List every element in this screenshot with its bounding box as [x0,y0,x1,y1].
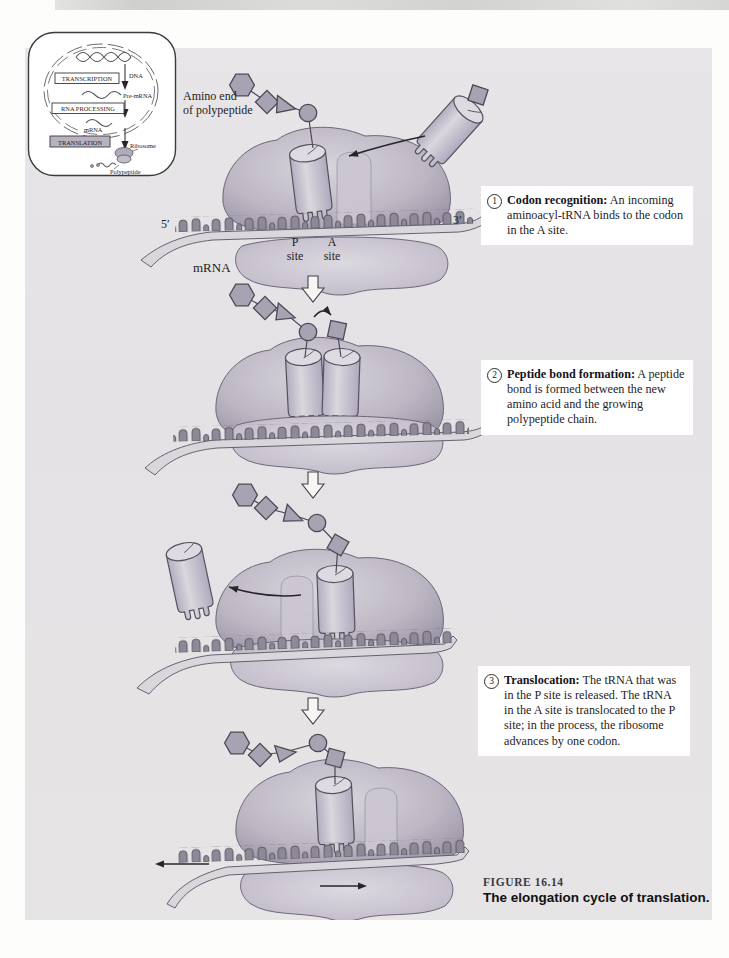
textbook-figure-page: DNA TRANSCRIPTION Pre-mRNA RNA PROCESSIN… [0,0,729,958]
amino-acid-circle [299,323,316,340]
svg-text:P: P [292,235,299,249]
step-4-ribosome-advanced [155,732,469,920]
five-prime-label: 5′ [161,217,170,231]
peptide-bond-arrow [314,306,334,317]
step-down-arrow-2 [302,472,324,498]
ribosome-small-subunit [236,237,448,295]
callout-3-text: Translocation: The tRNA that was in the … [504,673,682,749]
amino-acid-diamond [254,496,277,519]
callout-1-title: Codon recognition: [507,193,607,207]
amino-acid-circle [308,514,325,531]
amino-acid-triangle [275,742,298,762]
amino-acid-circle [309,734,326,751]
released-trna [165,540,216,623]
trna-in-p-site [285,348,325,427]
trna-in-a-site [322,348,361,426]
amino-acid-circle [299,104,316,121]
callout-1-text: Codon recognition: An incoming aminoacyl… [507,193,685,238]
amino-acid-triangle [281,504,306,527]
page-scan-edge [55,0,729,10]
callout-2-number-badge: 2 [487,368,502,383]
figure-number-label: FIGURE 16.14 [483,876,713,888]
callout-translocation: 3 Translocation: The tRNA that was in th… [478,666,690,756]
three-prime-label: 3′ [453,213,462,227]
mrna-label: mRNA [193,260,231,275]
amino-acid-triangle [275,96,298,116]
svg-text:site: site [324,249,341,263]
callout-2-title: Peptide bond formation: [507,367,635,381]
amino-acid-hexagon [230,284,255,306]
step-down-arrow-3 [302,698,324,724]
amino-end-label-line2: of polypeptide [183,103,253,117]
figure-title: The elongation cycle of translation. [483,890,713,905]
step-1-codon-recognition: Amino end of polypeptide 5′ 3′ mRNA P si… [141,74,494,295]
amino-acid-diamond [255,90,278,113]
amino-acid-square [325,748,345,768]
svg-text:A: A [328,235,337,249]
svg-text:site: site [287,249,304,263]
amino-end-label-line1: Amino end [183,89,237,103]
callout-3-number-badge: 3 [484,674,499,689]
callout-3-title: Translocation: [504,673,580,687]
amino-acid-hexagon [225,732,250,754]
amino-acid-diamond [253,296,276,319]
callout-peptide-bond-formation: 2 Peptide bond formation: A peptide bond… [481,360,693,435]
amino-acid-square [328,321,347,340]
callout-2-text: Peptide bond formation: A peptide bond i… [507,367,685,428]
step-3-translocation [137,484,457,697]
step-2-peptide-bond-formation [145,284,490,475]
figure-caption: FIGURE 16.14 The elongation cycle of tra… [483,876,713,905]
callout-codon-recognition: 1 Codon recognition: An incoming aminoac… [481,186,693,245]
amino-acid-hexagon [233,484,258,506]
amino-acid-diamond [248,743,271,766]
elongation-cycle-diagram: Amino end of polypeptide 5′ 3′ mRNA P si… [25,48,712,920]
trna-in-a-site [317,565,356,643]
callout-1-number-badge: 1 [487,194,502,209]
